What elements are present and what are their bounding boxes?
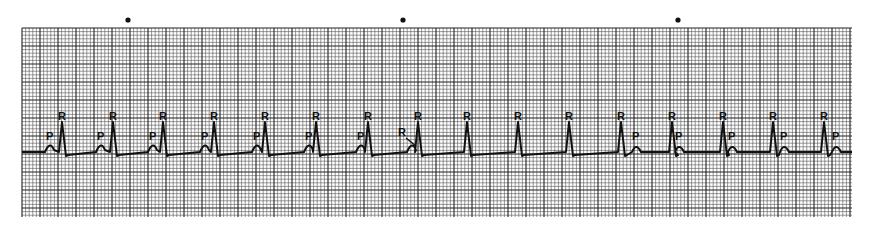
p-wave-label: P (149, 130, 156, 142)
r-wave-label: R (364, 110, 372, 122)
r-wave-label: R (820, 110, 828, 122)
time-markers (125, 17, 680, 22)
p-wave-label: P (201, 130, 208, 142)
r-wave-label: R (668, 110, 676, 122)
p-wave-label: P (97, 130, 104, 142)
time-marker-dot (125, 17, 130, 22)
r-wave-label: R (719, 110, 727, 122)
r-wave-label: R (58, 110, 66, 122)
r-wave-label: R (109, 110, 117, 122)
r-wave-label: R (514, 110, 522, 122)
p-wave-label: R (398, 126, 406, 138)
p-wave-label: P (632, 130, 639, 142)
p-wave-label: P (305, 130, 312, 142)
ecg-rhythm-strip: RPRPRPRPRPRPRPRRRRRRPRPRPRPRP (0, 0, 873, 229)
r-wave-label: R (617, 110, 625, 122)
r-wave-label: R (414, 110, 422, 122)
r-wave-label: R (261, 110, 269, 122)
time-marker-dot (400, 17, 405, 22)
p-wave-label: P (780, 130, 787, 142)
p-wave-label: P (357, 130, 364, 142)
p-wave-label: P (832, 130, 839, 142)
ecg-grid-paper (22, 28, 852, 217)
r-wave-label: R (159, 110, 167, 122)
p-wave-label: P (728, 130, 735, 142)
r-wave-label: R (769, 110, 777, 122)
p-wave-label: P (253, 130, 260, 142)
p-wave-label: P (46, 130, 53, 142)
r-wave-label: R (312, 110, 320, 122)
r-wave-label: R (463, 110, 471, 122)
r-wave-label: R (565, 110, 573, 122)
p-wave-label: P (675, 130, 682, 142)
time-marker-dot (675, 17, 680, 22)
r-wave-label: R (210, 110, 218, 122)
